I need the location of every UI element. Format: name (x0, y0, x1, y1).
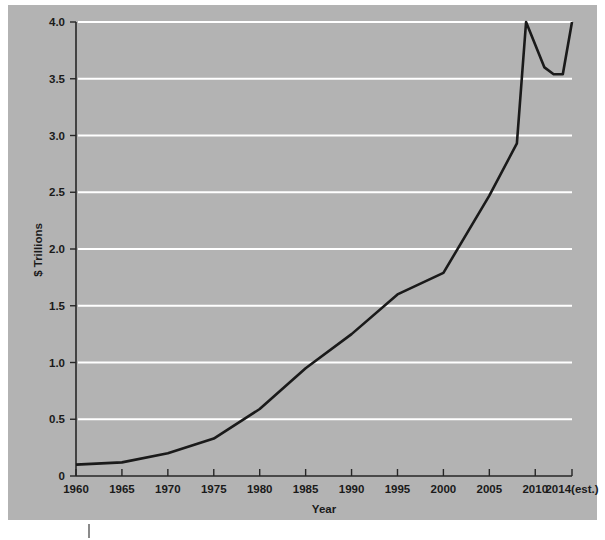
x-tick-label: 1995 (385, 483, 411, 495)
y-tick-labels-group: 00.51.01.52.02.53.03.54.0 (49, 16, 66, 482)
chart-page: 00.51.01.52.02.53.03.54.0 19601965197019… (0, 0, 605, 540)
y-tick-label: 3.5 (49, 73, 66, 85)
line-chart: 00.51.01.52.02.53.03.54.0 19601965197019… (0, 0, 605, 540)
y-tick-label: 0.5 (49, 413, 66, 425)
x-tick-label: 1965 (109, 483, 135, 495)
y-tick-label: 2.0 (49, 243, 65, 255)
y-tick-label: 1.5 (49, 300, 66, 312)
data-series-line (76, 22, 572, 465)
x-tick-group (76, 469, 572, 476)
x-tick-label: 2014(est.) (545, 483, 598, 495)
x-tick-label: 1985 (293, 483, 319, 495)
x-tick-label: 1980 (247, 483, 273, 495)
x-tick-labels-group: 1960196519701975198019851990199520002005… (63, 483, 598, 495)
x-tick-label: 1990 (339, 483, 365, 495)
x-tick-label: 2010 (522, 483, 548, 495)
x-tick-label: 2005 (477, 483, 503, 495)
y-tick-label: 1.0 (49, 357, 65, 369)
gridlines-group (78, 22, 572, 419)
y-tick-label: 4.0 (49, 16, 65, 28)
x-axis-title: Year (312, 503, 337, 515)
x-tick-label: 1960 (63, 483, 89, 495)
y-tick-label: 0 (59, 470, 65, 482)
y-tick-label: 2.5 (49, 186, 66, 198)
y-tick-label: 3.0 (49, 130, 65, 142)
x-tick-label: 1975 (201, 483, 227, 495)
x-tick-label: 2000 (431, 483, 457, 495)
y-tick-group (70, 22, 76, 476)
y-axis-title: $ Trillions (32, 223, 44, 277)
x-tick-label: 1970 (155, 483, 181, 495)
